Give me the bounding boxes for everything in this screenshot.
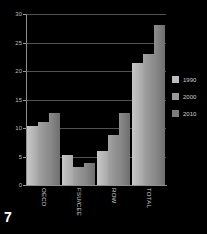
bar xyxy=(97,151,108,185)
bar xyxy=(49,113,60,185)
y-tick-label: 30 xyxy=(15,11,22,17)
x-label-cell: FSU/CEE xyxy=(61,186,96,232)
x-axis-tick-label: ROW xyxy=(111,188,117,204)
bar xyxy=(154,25,165,185)
legend-label: 2010 xyxy=(183,111,196,117)
y-tick-label: 15 xyxy=(15,97,22,103)
bar-group xyxy=(131,14,166,185)
legend-swatch xyxy=(172,76,179,83)
x-label-cell: TOTAL xyxy=(131,186,166,232)
bar xyxy=(119,113,130,185)
plot-area: 051015202530 xyxy=(26,14,166,185)
legend-item: 2000 xyxy=(172,93,196,100)
x-label-cell: OECD xyxy=(26,186,61,232)
bar-chart: 051015202530 OECDFSU/CEEROWTOTAL 1990200… xyxy=(0,0,207,234)
x-axis-tick-label: OECD xyxy=(41,188,47,207)
x-label-cell: ROW xyxy=(96,186,131,232)
bar xyxy=(73,167,84,185)
legend-swatch xyxy=(172,110,179,117)
y-tick-label: 0 xyxy=(19,182,22,188)
x-axis-labels: OECDFSU/CEEROWTOTAL xyxy=(26,186,166,232)
bar-group xyxy=(61,14,96,185)
bar xyxy=(143,54,154,185)
legend-swatch xyxy=(172,93,179,100)
chart-legend: 199020002010 xyxy=(172,76,196,117)
bar xyxy=(108,135,119,185)
bar-group xyxy=(96,14,131,185)
y-tick-label: 20 xyxy=(15,68,22,74)
page-number: 7 xyxy=(4,210,12,224)
legend-label: 2000 xyxy=(183,94,196,100)
bar xyxy=(62,155,73,185)
legend-item: 2010 xyxy=(172,110,196,117)
bar-group xyxy=(26,14,61,185)
y-tick-label: 5 xyxy=(19,154,22,160)
bar xyxy=(132,63,143,185)
bar-groups xyxy=(26,14,166,185)
bar xyxy=(38,122,49,185)
y-tick-label: 25 xyxy=(15,40,22,46)
x-axis-tick-label: FSU/CEE xyxy=(76,188,82,216)
legend-label: 1990 xyxy=(183,77,196,83)
y-tick-label: 10 xyxy=(15,125,22,131)
bar xyxy=(27,126,38,185)
bar xyxy=(84,163,95,185)
legend-item: 1990 xyxy=(172,76,196,83)
x-axis-tick-label: TOTAL xyxy=(146,188,152,208)
